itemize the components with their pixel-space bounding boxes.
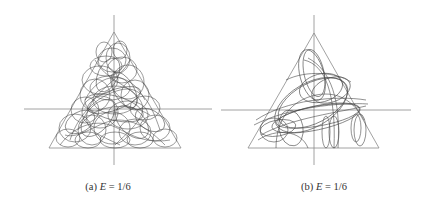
- caption-variable: E: [316, 181, 322, 192]
- caption-b: (b) E = 1/6: [216, 181, 432, 192]
- caption-equals: =: [325, 181, 331, 192]
- trajectory-curves-b: [254, 47, 368, 148]
- caption-variable: E: [100, 181, 106, 192]
- figure-panel-b: (b) E = 1/6: [216, 0, 432, 211]
- figure-panel-a: (a) E = 1/6: [0, 0, 216, 211]
- caption-label: (a): [85, 181, 97, 192]
- caption-a: (a) E = 1/6: [0, 181, 216, 192]
- trajectory-plot-b: [216, 0, 432, 211]
- trajectory-plot-a: [0, 0, 216, 211]
- caption-value: 1/6: [334, 181, 347, 192]
- trajectory-curves-a: [56, 41, 177, 148]
- caption-label: (b): [301, 181, 313, 192]
- caption-equals: =: [109, 181, 115, 192]
- caption-value: 1/6: [117, 181, 130, 192]
